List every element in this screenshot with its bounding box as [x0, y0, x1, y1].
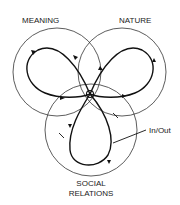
- social-label-line1: SOCIAL: [76, 179, 106, 188]
- arrow-icon: [73, 55, 78, 60]
- social-loop: [70, 94, 111, 165]
- meaning-loop: [27, 48, 90, 97]
- nature-loop: [90, 48, 153, 97]
- in-out-label: In/Out: [149, 126, 172, 135]
- three-domain-diagram: MEANING NATURE In/Out SOCIAL RELATIONS: [0, 0, 180, 205]
- meaning-label: MEANING: [22, 16, 59, 25]
- meaning-circle: [13, 28, 101, 116]
- tick-mark: [59, 133, 64, 138]
- social-label-line2: RELATIONS: [69, 189, 114, 198]
- nature-label: NATURE: [119, 16, 151, 25]
- arrow-icon: [107, 160, 111, 164]
- in-out-leader: [113, 130, 146, 143]
- arrow-icon: [68, 124, 72, 128]
- arrow-icon: [152, 58, 156, 62]
